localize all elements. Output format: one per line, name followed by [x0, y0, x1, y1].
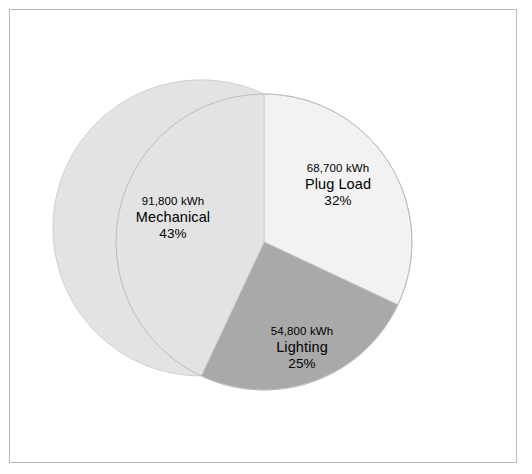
pie-label-mechanical: 91,800 kWh Mechanical 43%	[136, 195, 210, 242]
pie-chart: 68,700 kWh Plug Load 32% 54,800 kWh Ligh…	[0, 0, 532, 474]
pie-chart-svg	[0, 0, 532, 474]
pie-label-plug-load-value: 68,700 kWh	[305, 162, 371, 176]
pie-label-plug-load-percent: 32%	[305, 192, 371, 208]
pie-label-lighting-value: 54,800 kWh	[271, 325, 333, 339]
pie-label-lighting: 54,800 kWh Lighting 25%	[271, 325, 333, 372]
pie-label-mechanical-value: 91,800 kWh	[136, 195, 210, 209]
pie-label-plug-load: 68,700 kWh Plug Load 32%	[305, 162, 371, 209]
pie-label-lighting-percent: 25%	[271, 355, 333, 371]
pie-label-mechanical-percent: 43%	[136, 225, 210, 241]
pie-label-plug-load-name: Plug Load	[305, 175, 371, 192]
pie-label-lighting-name: Lighting	[271, 338, 333, 355]
screenshot-canvas: 68,700 kWh Plug Load 32% 54,800 kWh Ligh…	[0, 0, 532, 474]
pie-label-mechanical-name: Mechanical	[136, 208, 210, 225]
